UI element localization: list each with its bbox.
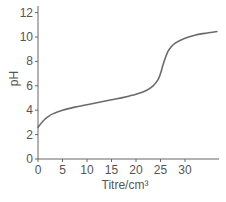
x-tick-label: 5 bbox=[59, 163, 66, 177]
x-tick-label: 20 bbox=[129, 163, 143, 177]
y-tick-label: 12 bbox=[20, 6, 34, 20]
x-tick-label: 0 bbox=[35, 163, 42, 177]
y-tick-label: 2 bbox=[26, 128, 33, 142]
x-axis-ticks: 051015202530 bbox=[35, 159, 192, 177]
y-tick-label: 0 bbox=[26, 152, 33, 166]
y-tick-label: 6 bbox=[26, 79, 33, 93]
titration-curve-chart: 024681012 051015202530 pH Titre/cm³ bbox=[0, 0, 226, 202]
ph-curve-line bbox=[38, 32, 217, 128]
y-axis-label: pH bbox=[7, 71, 21, 86]
y-axis-ticks: 024681012 bbox=[20, 6, 38, 166]
y-tick-label: 8 bbox=[26, 54, 33, 68]
x-tick-label: 15 bbox=[105, 163, 119, 177]
x-tick-label: 25 bbox=[154, 163, 168, 177]
x-axis-label: Titre/cm³ bbox=[102, 178, 149, 192]
x-tick-label: 10 bbox=[80, 163, 94, 177]
y-tick-label: 10 bbox=[20, 30, 34, 44]
y-tick-label: 4 bbox=[26, 103, 33, 117]
plot-area bbox=[38, 32, 217, 128]
x-tick-label: 30 bbox=[178, 163, 192, 177]
